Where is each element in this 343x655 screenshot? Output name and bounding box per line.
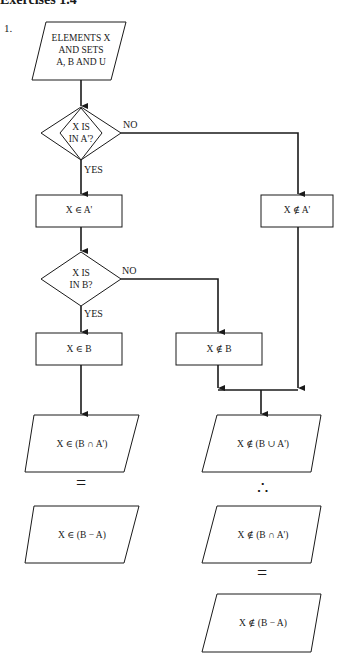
not-in-a-comp-label: X ∉ A' [261, 204, 333, 216]
decision2-label: X IS IN B? [51, 267, 111, 291]
input-line-2: AND SETS [40, 44, 122, 56]
left-equals-sign: = [66, 473, 96, 494]
left-result2-label: X ∈ (B − A) [30, 529, 134, 541]
in-b-label: X ∈ B [36, 343, 122, 355]
decision2-no-label: NO [122, 265, 136, 276]
input-line-1: ELEMENTS X [40, 32, 122, 44]
decision2-line-1: X IS [51, 267, 111, 279]
decision1-line-2: IN A'? [51, 133, 111, 145]
right-result2-label: X ∉ (B ∩ A') [210, 529, 316, 541]
right-equals-sign: = [247, 563, 277, 584]
input-line-3: A, B AND U [40, 56, 122, 68]
right-result3-label: X ∉ (B − A) [210, 617, 316, 629]
flowchart-lines [0, 0, 343, 655]
decision1-no-label: NO [123, 119, 137, 130]
decision1-yes-label: YES [84, 164, 103, 175]
decision2-yes-label: YES [84, 308, 103, 319]
right-therefore-sign: ∴ [247, 477, 277, 499]
decision1-line-1: X IS [51, 121, 111, 133]
not-in-b-label: X ∉ B [176, 343, 262, 355]
left-result1-label: X ∈ (B ∩ A') [30, 438, 134, 450]
decision2-line-2: IN B? [51, 279, 111, 291]
input-label: ELEMENTS X AND SETS A, B AND U [40, 32, 122, 68]
in-a-comp-label: X ∈ A' [36, 204, 122, 216]
decision1-label: X IS IN A'? [51, 121, 111, 145]
right-result1-label: X ∉ (B ∪ A') [210, 438, 316, 450]
